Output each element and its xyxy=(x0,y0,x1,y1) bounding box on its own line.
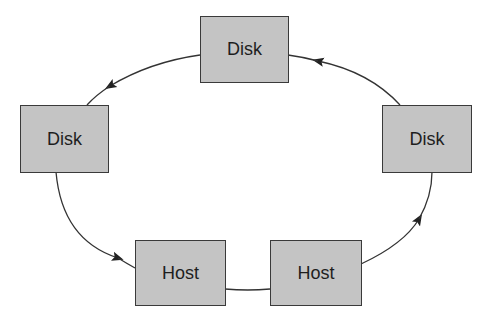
edge-disk-top-to-disk-left xyxy=(110,55,200,86)
node-disk-right: Disk xyxy=(382,105,472,173)
node-label: Disk xyxy=(227,39,262,60)
edge-host-right-to-disk-right xyxy=(361,219,419,264)
node-disk-top: Disk xyxy=(200,16,289,83)
node-disk-left: Disk xyxy=(20,105,109,173)
node-label: Host xyxy=(297,263,334,284)
node-host-right: Host xyxy=(270,240,362,306)
edge-disk-right-to-disk-top xyxy=(318,61,400,105)
edge-host-left-to-host-right xyxy=(225,289,270,290)
node-host-left: Host xyxy=(135,240,226,306)
edge-disk-left-to-host-left xyxy=(56,172,118,258)
node-label: Host xyxy=(162,263,199,284)
node-label: Disk xyxy=(47,129,82,150)
node-label: Disk xyxy=(410,129,445,150)
